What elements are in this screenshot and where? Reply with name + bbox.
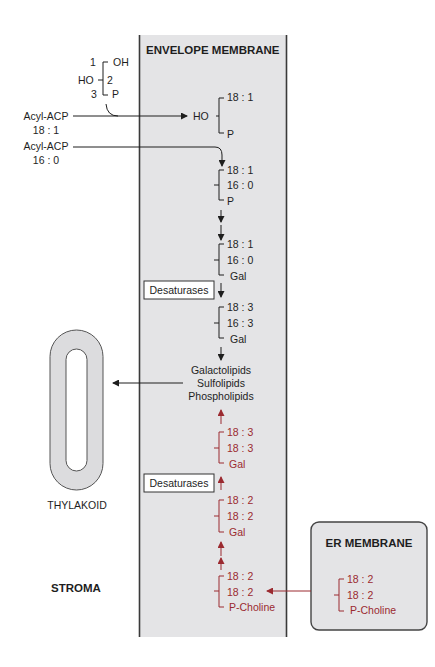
svg-text:P-Choline: P-Choline bbox=[350, 604, 396, 616]
svg-text:OH: OH bbox=[113, 56, 129, 68]
svg-text:Desaturases: Desaturases bbox=[150, 477, 209, 489]
svg-text:P: P bbox=[112, 88, 119, 100]
svg-text:P: P bbox=[227, 128, 234, 140]
svg-text:18 : 1: 18 : 1 bbox=[227, 164, 253, 176]
svg-text:2: 2 bbox=[107, 74, 113, 86]
svg-text:16 : 0: 16 : 0 bbox=[227, 179, 253, 191]
svg-text:HO: HO bbox=[78, 74, 94, 86]
envelope-membrane: ENVELOPE MEMBRANE bbox=[139, 35, 287, 637]
svg-text:18 : 2: 18 : 2 bbox=[227, 586, 253, 598]
svg-text:18 : 2: 18 : 2 bbox=[227, 570, 253, 582]
desaturases-box-2: Desaturases bbox=[144, 474, 221, 492]
svg-text:18 : 2: 18 : 2 bbox=[347, 589, 373, 601]
svg-text:Gal: Gal bbox=[229, 526, 245, 538]
svg-text:Sulfolipids: Sulfolipids bbox=[197, 377, 245, 389]
envelope-title: ENVELOPE MEMBRANE bbox=[146, 44, 280, 56]
svg-text:18 : 1: 18 : 1 bbox=[227, 238, 253, 250]
svg-text:18 : 3: 18 : 3 bbox=[227, 442, 253, 454]
svg-text:18 : 3: 18 : 3 bbox=[227, 426, 253, 438]
svg-text:16 : 0: 16 : 0 bbox=[33, 154, 59, 166]
svg-text:18 : 1: 18 : 1 bbox=[33, 124, 59, 136]
svg-text:16 : 0: 16 : 0 bbox=[227, 254, 253, 266]
svg-text:Acyl-ACP: Acyl-ACP bbox=[24, 140, 69, 152]
lipid-synthesis-diagram: ENVELOPE MEMBRANE 1 OH HO 2 3 P Acyl-ACP… bbox=[0, 0, 435, 667]
svg-text:18 : 2: 18 : 2 bbox=[227, 494, 253, 506]
svg-text:P-Choline: P-Choline bbox=[229, 601, 275, 613]
thylakoid-label: THYLAKOID bbox=[47, 499, 107, 511]
svg-text:18 : 3: 18 : 3 bbox=[227, 301, 253, 313]
svg-text:3: 3 bbox=[91, 88, 97, 100]
desaturases-box-1: Desaturases bbox=[144, 281, 214, 299]
svg-text:Phospholipids: Phospholipids bbox=[188, 390, 253, 402]
svg-text:Gal: Gal bbox=[229, 458, 245, 470]
stroma-label: STROMA bbox=[51, 582, 101, 594]
svg-text:Desaturases: Desaturases bbox=[150, 284, 209, 296]
svg-text:Gal: Gal bbox=[230, 333, 246, 345]
er-title: ER MEMBRANE bbox=[326, 537, 413, 549]
svg-text:18 : 2: 18 : 2 bbox=[227, 510, 253, 522]
svg-text:18 : 1: 18 : 1 bbox=[227, 91, 253, 103]
thylakoid: THYLAKOID bbox=[47, 330, 107, 511]
svg-text:16 : 3: 16 : 3 bbox=[227, 317, 253, 329]
svg-text:Gal: Gal bbox=[230, 270, 246, 282]
glycerol-phosphate: 1 OH HO 2 3 P bbox=[78, 56, 129, 116]
svg-text:HO: HO bbox=[193, 110, 209, 122]
svg-text:P: P bbox=[227, 195, 234, 207]
svg-text:Acyl-ACP: Acyl-ACP bbox=[24, 110, 69, 122]
svg-text:Galactolipids: Galactolipids bbox=[191, 364, 251, 376]
svg-text:18 : 2: 18 : 2 bbox=[347, 573, 373, 585]
svg-text:1: 1 bbox=[90, 56, 96, 68]
er-membrane: ER MEMBRANE 18 : 2 18 : 2 P-Choline bbox=[267, 522, 427, 630]
